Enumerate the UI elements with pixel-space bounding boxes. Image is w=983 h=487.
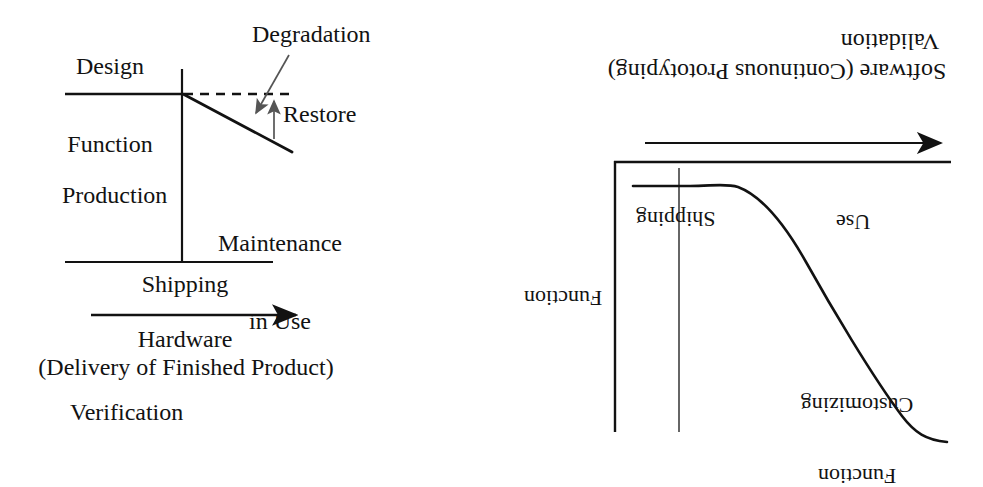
shipping-label: Shipping xyxy=(636,207,715,231)
customizing-function-label: Function Customizing xyxy=(790,346,924,487)
degrading-function-line xyxy=(183,94,292,152)
degradation-label: Degradation xyxy=(252,22,371,48)
validation-label: Validation xyxy=(820,28,960,54)
design-function-line1: Design xyxy=(40,54,180,80)
hardware-verification-diagram: Design Function Degradation Restore Prod… xyxy=(0,0,490,465)
software-validation-diagram: Validation Software (Continuous Prototyp… xyxy=(490,0,983,465)
verification-label: Verification xyxy=(70,400,183,426)
delivery-of-finished-product-label: (Delivery of Finished Product) xyxy=(16,355,356,381)
customizing-function-line2: Customizing xyxy=(790,394,924,418)
design-function-axis-title: Design Function xyxy=(40,2,180,209)
design-function-line2: Function xyxy=(40,132,180,158)
software-continuous-prototyping-label: Software (Continuous Prototyping) xyxy=(592,58,962,84)
function-axis-label: Function xyxy=(524,286,602,310)
production-label: Production xyxy=(62,183,167,209)
restore-label: Restore xyxy=(283,102,356,128)
customizing-function-line1: Function xyxy=(790,465,924,487)
hardware-label: Hardware xyxy=(105,327,265,353)
use-label: Use xyxy=(836,210,870,234)
shipping-label: Shipping xyxy=(110,272,260,298)
maintenance-line1: Maintenance xyxy=(200,231,360,257)
